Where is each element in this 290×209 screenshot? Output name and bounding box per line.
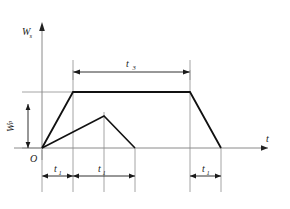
dimension-t3: t 3 <box>73 58 190 80</box>
waveform-curves <box>42 92 221 148</box>
dimension-t1-fall-arrow-left <box>190 174 196 179</box>
dimension-t3-label: t <box>126 58 129 69</box>
dimension-t1-fall-arrow-right <box>215 174 221 179</box>
outer-trapezoid-curve <box>42 92 221 148</box>
dimension-t1-left-label: t <box>54 163 57 174</box>
waveform-diagram: t 3 t 1 t 1 t 1 <box>0 0 290 209</box>
inner-triangle-curve <box>42 116 135 148</box>
origin-label: O <box>30 153 37 164</box>
axes <box>14 22 268 160</box>
dimension-t3-arrow-right <box>183 69 190 74</box>
dimension-t1-left-label-sub: 1 <box>59 169 62 176</box>
dimension-wp-arrow-bottom <box>26 142 31 148</box>
dimension-t1-right-label-sub: 1 <box>103 169 106 176</box>
dimension-t1-right-arrow-right <box>129 174 135 179</box>
dimension-t1-left-arrow-right <box>67 174 73 179</box>
dimension-t1-left-arrow-left <box>42 174 48 179</box>
dimension-t1-fall-label-sub: 1 <box>207 169 210 176</box>
dimension-t1-right-arrow-left <box>73 174 79 179</box>
dimension-t3-arrow-left <box>73 69 80 74</box>
dimension-t1-right-label: t <box>98 163 101 174</box>
dimension-t1-fall-label: t <box>202 163 205 174</box>
dimension-wp: W p <box>5 104 30 148</box>
figure-container: t 3 t 1 t 1 t 1 <box>0 0 290 209</box>
dimension-t3-label-sub: 3 <box>132 64 137 71</box>
dimension-wp-arrow-top <box>26 104 31 110</box>
x-axis-label: t <box>266 133 269 144</box>
x-axis-arrowhead <box>261 145 268 151</box>
y-axis-arrowhead <box>39 22 45 31</box>
axis-labels: W s t O <box>22 26 269 164</box>
y-axis-label-sub: s <box>30 32 33 39</box>
dimension-t1-fall: t 1 <box>190 163 221 178</box>
dimension-t1-left: t 1 <box>42 150 73 192</box>
dimension-wp-label-sub: p <box>6 120 13 125</box>
